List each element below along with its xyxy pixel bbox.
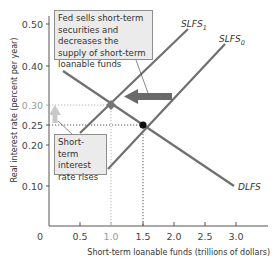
rate-rises-callout: Short-term interest rate rises bbox=[54, 134, 107, 175]
x-axis-title: Short-term loanable funds (trillions of … bbox=[87, 248, 270, 257]
fed-sells-callout: Fed sells short-term securities and decr… bbox=[54, 10, 153, 60]
y-tick-025: 0.25 bbox=[22, 120, 43, 131]
initial-equilibrium-point bbox=[139, 121, 146, 128]
y-tick-010: 0.10 bbox=[22, 181, 43, 192]
slfs0-curve bbox=[108, 44, 225, 169]
dlfs-label: DLFS bbox=[238, 182, 261, 192]
x-tick-25: 2.5 bbox=[197, 231, 212, 242]
x-tick-15: 1.5 bbox=[135, 231, 150, 242]
supply-shift-arrow-icon bbox=[124, 89, 172, 104]
x-tick-20: 2.0 bbox=[166, 231, 181, 242]
x-tick-30: 3.0 bbox=[228, 231, 243, 242]
y-tick-050: 0.50 bbox=[22, 19, 43, 30]
x-tick-10: 1.0 bbox=[103, 231, 118, 242]
x-tick-05: 0.5 bbox=[72, 231, 87, 242]
y-tick-labels: 0.50 0.40 0.30 0.25 0.20 0.10 bbox=[22, 19, 43, 192]
y-tick-030: 0.30 bbox=[22, 100, 43, 111]
slfs1-label: SLFS1 bbox=[181, 19, 207, 32]
y-axis-title: Real interest rate (percent per year) bbox=[10, 38, 19, 183]
x-tick-origin: 0 bbox=[37, 231, 43, 242]
x-tick-labels: 0 0.5 1.0 1.5 2.0 2.5 3.0 bbox=[37, 231, 244, 242]
y-tick-020: 0.20 bbox=[22, 140, 43, 151]
y-tick-040: 0.40 bbox=[22, 61, 43, 72]
slfs0-label: SLFS0 bbox=[219, 34, 245, 47]
rate-callout-leader bbox=[58, 121, 72, 134]
rate-rise-arrow-icon bbox=[49, 105, 61, 123]
